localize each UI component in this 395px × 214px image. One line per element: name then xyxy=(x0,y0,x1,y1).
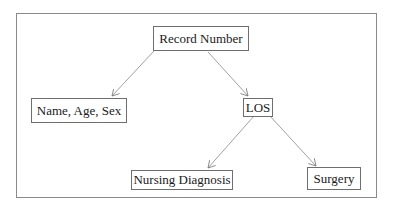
node-surgery: Surgery xyxy=(307,167,361,190)
node-record-number: Record Number xyxy=(153,26,249,51)
edge-los-to-surgery xyxy=(270,116,316,166)
node-name-age-sex: Name, Age, Sex xyxy=(31,98,127,123)
node-nursing-diagnosis: Nursing Diagnosis xyxy=(131,170,233,190)
edge-record-to-los xyxy=(208,52,248,96)
edge-los-to-nursing xyxy=(208,116,254,168)
node-los: LOS xyxy=(243,98,273,117)
edge-record-to-name xyxy=(112,51,154,96)
